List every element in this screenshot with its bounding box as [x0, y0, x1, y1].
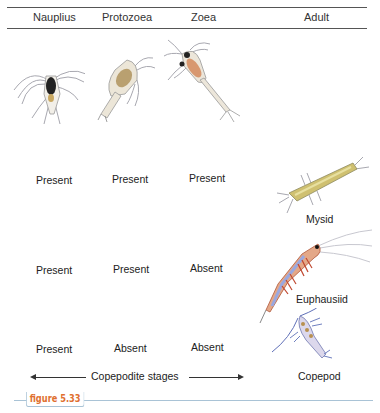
adult-label-copepod: Copepod: [298, 370, 341, 382]
row2-protozoea-value: Present: [113, 263, 149, 275]
row2-nauplius-value: Present: [36, 264, 72, 276]
column-header-protozoea: Protozoea: [102, 11, 152, 23]
zoea-illustration: [160, 38, 245, 123]
adult-label-mysid: Mysid: [306, 213, 333, 225]
nauplius-illustration: [10, 60, 85, 125]
row3-protozoea-value: Absent: [114, 342, 147, 354]
adult-label-euphausiid: Euphausiid: [296, 293, 348, 305]
row3-zoea-value: Absent: [191, 341, 224, 353]
copepod-illustration: [270, 308, 345, 368]
row1-protozoea-value: Present: [112, 173, 148, 185]
column-header-zoea: Zoea: [191, 11, 216, 23]
row3-nauplius-value: Present: [36, 343, 72, 355]
arrow-left-line: [34, 377, 86, 378]
table-header-rule: [7, 28, 367, 29]
mysid-illustration: [275, 155, 370, 215]
column-header-adult: Adult: [304, 11, 329, 23]
row1-zoea-value: Present: [189, 172, 225, 184]
copepodite-stages-label: Copepodite stages: [91, 370, 179, 382]
column-header-nauplius: Nauplius: [33, 11, 76, 23]
row1-nauplius-value: Present: [36, 174, 72, 186]
caption-rule-right: [78, 400, 373, 401]
protozoea-illustration: [95, 48, 155, 123]
figure-number-tag: figure 5.33: [26, 392, 84, 407]
arrow-right-line: [189, 377, 239, 378]
table-top-rule: [7, 7, 367, 8]
arrow-right-icon: [238, 374, 244, 380]
row2-zoea-value: Absent: [190, 262, 223, 274]
